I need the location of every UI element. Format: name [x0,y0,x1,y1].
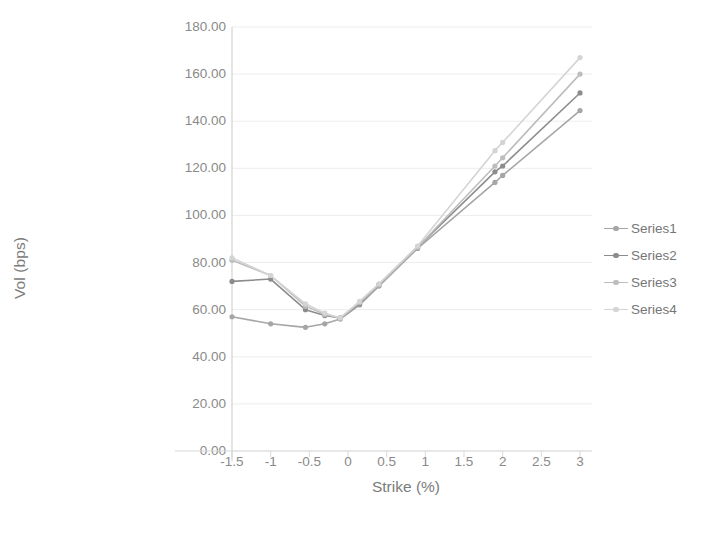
legend-marker-dot [613,307,619,313]
data-point [415,243,420,248]
data-point [492,163,497,168]
data-point [268,321,273,326]
legend-marker-dot [613,253,619,259]
data-point [322,311,327,316]
legend-marker-dot [613,226,619,232]
legend-swatch-icon [604,277,628,289]
legend-label: Series2 [631,248,677,263]
data-point [492,169,497,174]
data-point [492,180,497,185]
legend-swatch-icon [604,304,628,316]
data-point [577,108,582,113]
data-point [268,273,273,278]
legend-label: Series3 [631,275,677,290]
legend-item-series1[interactable]: Series1 [604,215,709,242]
series-lines [229,55,582,330]
data-point [322,321,327,326]
data-point [492,148,497,153]
data-point [357,299,362,304]
data-point [229,314,234,319]
data-point [577,90,582,95]
legend-item-series4[interactable]: Series4 [604,296,709,323]
data-point [303,301,308,306]
legend-label: Series1 [631,221,677,236]
data-point [577,55,582,60]
gridlines [232,27,592,451]
series-3 [229,72,582,321]
data-point [577,72,582,77]
legend: Series1Series2Series3Series4 [604,215,709,323]
axis-lines [175,27,592,461]
data-point [500,140,505,145]
legend-item-series3[interactable]: Series3 [604,269,709,296]
legend-swatch-icon [604,223,628,235]
legend-swatch-icon [604,250,628,262]
series-line [232,74,580,318]
data-point [338,315,343,320]
data-point [500,173,505,178]
data-point [376,281,381,286]
series-4 [229,55,582,320]
legend-label: Series4 [631,302,677,317]
data-point [229,255,234,260]
series-line [232,58,580,318]
data-point [229,279,234,284]
series-line [232,93,580,318]
volatility-smile-chart: Vol (bps) Strike (%) 0.0020.0040.0060.00… [0,0,715,536]
legend-item-series2[interactable]: Series2 [604,242,709,269]
data-point [303,325,308,330]
data-point [500,163,505,168]
data-point [500,155,505,160]
legend-marker-dot [613,280,619,286]
